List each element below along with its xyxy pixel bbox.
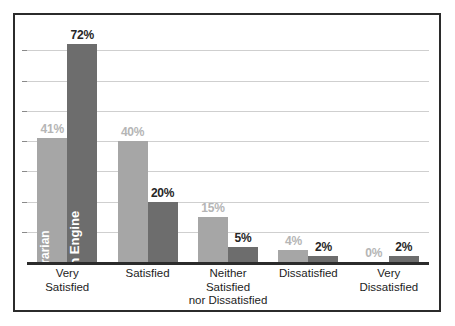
category-label-line: Satisfied [170,281,286,295]
bar-value-label: 4% [285,234,302,248]
bar-group: 41%Librarian72%Search Engine [37,20,97,262]
bar-group: 15%5% [198,20,258,262]
category-label-line: Dissatisfied [331,281,447,295]
bar-librarian[interactable]: 40% [118,141,148,262]
bar-value-label: 2% [315,240,332,254]
category-label-line: nor Dissatisfied [170,294,286,308]
bar-value-label: 41% [40,122,63,136]
bar-value-label: 2% [395,240,412,254]
bar-search-engine[interactable]: 5% [228,247,258,262]
top-cut-off-text-artifact [130,0,250,8]
category-label-line: Satisfied [9,281,125,295]
bar-value-label: 40% [121,125,144,139]
bar-group: 40%20% [118,20,178,262]
bar-value-label: 15% [201,201,224,215]
category-label-line: Very [331,267,447,281]
bar-group: 0%2% [359,20,419,262]
bars-layer: 41%Librarian72%Search Engine40%20%15%5%4… [27,20,429,262]
bar-librarian[interactable]: 4% [278,250,308,262]
bar-value-label: 20% [151,186,174,200]
chart-figure-frame: 41%Librarian72%Search Engine40%20%15%5%4… [13,13,441,312]
category-label: VeryDissatisfied [331,267,447,294]
bar-search-engine[interactable]: 20% [148,202,178,263]
plot-area: 41%Librarian72%Search Engine40%20%15%5%4… [27,20,429,262]
category-axis-labels: VerySatisfiedSatisfiedNeitherSatisfiedno… [27,267,429,326]
bar-librarian[interactable]: 41%Librarian [37,138,67,262]
bar-librarian[interactable]: 15% [198,217,228,262]
bar-group: 4%2% [278,20,338,262]
bar-value-label: 5% [235,231,252,245]
bar-search-engine[interactable]: 72%Search Engine [67,44,97,262]
bar-value-label: 72% [70,28,93,42]
category-axis-line [27,262,429,265]
bar-value-label: 0% [365,246,382,260]
